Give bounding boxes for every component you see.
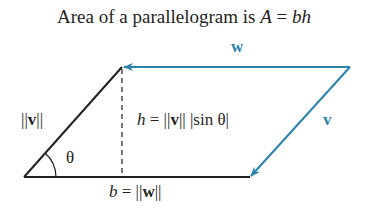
parallelogram-figure: [0, 0, 368, 214]
label-v: v: [323, 110, 332, 130]
label-w: w: [231, 37, 243, 57]
label-base-formula: b = ||w||: [109, 182, 162, 202]
label-norm-v: ||v||: [21, 110, 43, 130]
label-theta: θ: [66, 148, 74, 168]
angle-arc: [45, 153, 56, 177]
label-height-formula: h = ||v|| |sin θ|: [137, 110, 229, 130]
vector-v-arrow: [251, 67, 350, 176]
